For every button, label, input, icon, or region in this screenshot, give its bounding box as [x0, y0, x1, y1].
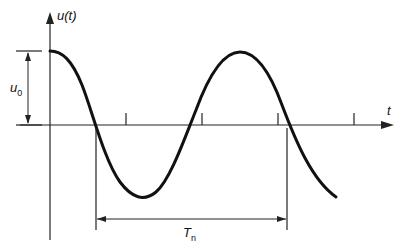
period-arrow-right-icon [277, 216, 286, 222]
amplitude-arrow-down-icon [25, 115, 31, 124]
period-arrow-left-icon [97, 216, 106, 222]
period-label: Tn [183, 226, 196, 243]
amplitude-label: u0 [10, 81, 22, 98]
response-curve [50, 51, 336, 197]
vibration-diagram [0, 0, 406, 247]
x-axis-ticks [126, 113, 354, 125]
diagram-canvas: u(t) t u0 Tn [0, 0, 406, 247]
y-axis-label: u(t) [57, 9, 77, 22]
x-axis-label: t [387, 104, 391, 117]
x-axis-arrow-icon [381, 121, 394, 129]
y-axis-arrow-icon [46, 12, 54, 24]
amplitude-arrow-up-icon [25, 52, 31, 61]
